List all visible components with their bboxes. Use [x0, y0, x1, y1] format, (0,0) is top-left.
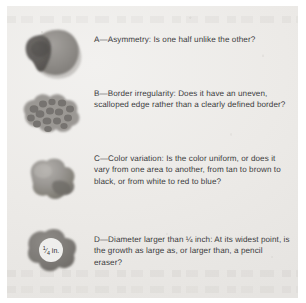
- scanned-page: A—Asymmetry: Is one half unlike the othe…: [0, 0, 306, 303]
- asymmetric-lesion-illustration: [7, 24, 94, 84]
- scan-area: A—Asymmetry: Is one half unlike the othe…: [7, 6, 298, 298]
- border-irregularity-caption: B—Border irregularity: Does it have an u…: [94, 88, 292, 111]
- bleed-through-text-bottom-2: [7, 286, 298, 293]
- diameter-lesion-illustration: 1⁄4 in.: [7, 218, 94, 284]
- abcd-item-diameter: 1⁄4 in. D—Diameter larger than ¼ inch: A…: [7, 218, 298, 284]
- color-figure-cell: [7, 149, 94, 209]
- diameter-figure-cell: 1⁄4 in.: [7, 218, 94, 284]
- irregular-border-lesion-illustration: [7, 84, 94, 144]
- abcd-item-color-variation: C—Color variation: Is the color uniform,…: [7, 149, 298, 209]
- asymmetry-text-cell: A—Asymmetry: Is one half unlike the othe…: [94, 24, 298, 45]
- asymmetry-caption: A—Asymmetry: Is one half unlike the othe…: [94, 34, 292, 45]
- diameter-text-cell: D—Diameter larger than ¼ inch: At its wi…: [94, 218, 298, 268]
- diameter-caption: D—Diameter larger than ¼ inch: At its wi…: [94, 234, 292, 268]
- bleed-through-text-top: [7, 16, 298, 23]
- border-figure-cell: [7, 84, 94, 144]
- color-text-cell: C—Color variation: Is the color uniform,…: [94, 149, 298, 187]
- abcd-item-border-irregularity: B—Border irregularity: Does it have an u…: [7, 84, 298, 144]
- border-text-cell: B—Border irregularity: Does it have an u…: [94, 84, 298, 111]
- abcd-item-asymmetry: A—Asymmetry: Is one half unlike the othe…: [7, 24, 298, 84]
- color-variation-caption: C—Color variation: Is the color uniform,…: [94, 153, 292, 187]
- light-color-patch: [34, 164, 52, 178]
- color-variation-lesion-illustration: [7, 149, 94, 209]
- asymmetry-figure-cell: [7, 24, 94, 84]
